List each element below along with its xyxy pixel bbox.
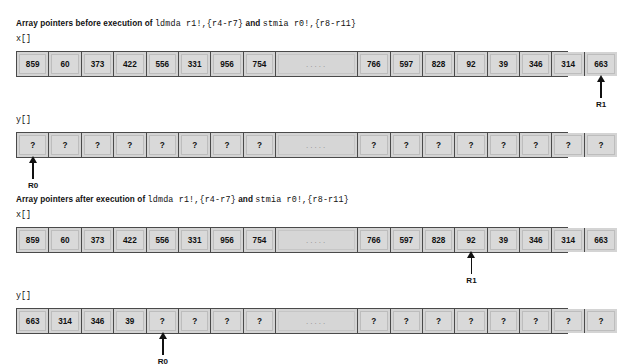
- caption-before-and: and: [243, 19, 263, 28]
- array-x-before-cell-value-15: 314: [561, 60, 575, 69]
- arrow-shaft-icon: [32, 162, 34, 179]
- array-x-after-cell-value-3: 422: [123, 236, 137, 245]
- array-y-before-cell-value-3: ?: [127, 141, 132, 150]
- array-x-before-cell-2: 373: [82, 52, 114, 76]
- array-y-after-cell-value-1: 314: [58, 317, 72, 326]
- array-y-after-cell-value-12: ?: [468, 317, 473, 326]
- array-y-after-cell-7: ?: [244, 309, 276, 333]
- arrow-shaft-icon: [471, 257, 473, 274]
- array-y-before-cell-7: ?: [244, 133, 276, 157]
- array-x-after-cell-8: .....: [276, 228, 358, 252]
- array-y-before-cell-14: ?: [520, 133, 552, 157]
- array-x-before-cell-value-13: 39: [499, 60, 508, 69]
- array-y-after-cell-value-5: ?: [192, 317, 197, 326]
- caption-before-instr2: stmia r0!,{r8-r11}: [263, 19, 357, 29]
- array-x-before-cell-1: 60: [49, 52, 81, 76]
- array-y-after: 66331434639????.....????????: [16, 308, 568, 334]
- array-x-before-cell-14: 346: [520, 52, 552, 76]
- array-x-after-cell-value-2: 373: [91, 236, 105, 245]
- array-x-before-cell-value-1: 60: [61, 60, 70, 69]
- array-x-after-cell-value-7: 754: [253, 236, 267, 245]
- array-y-before-cell-value-7: ?: [257, 141, 262, 150]
- array-y-after-cell-2: 346: [82, 309, 114, 333]
- array-x-after-cell-2: 373: [82, 228, 114, 252]
- array-y-before-cell-value-4: ?: [160, 141, 165, 150]
- array-x-before-cell-15: 314: [552, 52, 584, 76]
- array-y-after-cell-14: ?: [520, 309, 552, 333]
- array-x-before-cell-6: 956: [211, 52, 243, 76]
- array-label-x-before: x[]: [16, 34, 568, 45]
- array-x-after-cell-value-12: 92: [466, 236, 475, 245]
- array-y-after-cell-value-13: ?: [501, 317, 506, 326]
- array-y-before-cell-6: ?: [211, 133, 243, 157]
- array-y-before-cell-value-14: ?: [533, 141, 538, 150]
- array-x-after-cell-3: 422: [114, 228, 146, 252]
- array-y-before-cell-value-16: ?: [599, 141, 604, 150]
- array-x-after-cell-value-11: 828: [432, 236, 446, 245]
- array-y-before-cell-value-12: ?: [468, 141, 473, 150]
- array-y-after-cell-12: ?: [455, 309, 487, 333]
- array-y-after-cell-value-15: ?: [566, 317, 571, 326]
- array-y-after-cell-value-2: 346: [91, 317, 105, 326]
- array-y-after-cell-10: ?: [391, 309, 423, 333]
- array-x-after-cell-16: 663: [585, 228, 617, 252]
- section-after: Array pointers after execution of ldmda …: [16, 194, 568, 334]
- array-y-before-cell-15: ?: [552, 133, 584, 157]
- array-x-after-cell-7: 754: [244, 228, 276, 252]
- array-x-after-cell-6: 956: [211, 228, 243, 252]
- pointer-r1-before: R1: [588, 81, 614, 110]
- array-x-before-cell-value-7: 754: [253, 60, 267, 69]
- array-y-after-cell-value-4: ?: [160, 317, 165, 326]
- array-y-after-cell-1: 314: [49, 309, 81, 333]
- array-y-before-cell-10: ?: [391, 133, 423, 157]
- array-x-after-cell-value-6: 956: [220, 236, 234, 245]
- array-x-before-cell-11: 828: [423, 52, 455, 76]
- array-label-y-after: y[]: [16, 291, 568, 302]
- array-y-before-cell-13: ?: [488, 133, 520, 157]
- array-x-before-cell-value-6: 956: [220, 60, 234, 69]
- array-x-before-cell-4: 556: [147, 52, 179, 76]
- array-x-before-cell-value-10: 597: [399, 60, 413, 69]
- array-y-before-cell-value-8: .....: [306, 141, 327, 150]
- array-x-before-cell-5: 331: [179, 52, 211, 76]
- array-x-before-cell-value-8: .....: [306, 60, 327, 69]
- array-y-before-cell-value-2: ?: [95, 141, 100, 150]
- pointer-label-r0-before: R0: [20, 181, 46, 191]
- array-x-before-cell-16: 663: [585, 52, 617, 76]
- array-x-before-cell-value-9: 766: [367, 60, 381, 69]
- array-y-before-cell-value-11: ?: [436, 141, 441, 150]
- array-x-after-cell-value-13: 39: [499, 236, 508, 245]
- array-x-before-cell-0: 859: [17, 52, 49, 76]
- array-y-after-cell-value-11: ?: [436, 317, 441, 326]
- array-x-after-cell-0: 859: [17, 228, 49, 252]
- array-x-before-cell-value-3: 422: [123, 60, 137, 69]
- section-before: Array pointers before execution of ldmda…: [16, 18, 568, 158]
- array-x-after-cell-9: 766: [358, 228, 390, 252]
- array-x-before-cell-value-11: 828: [432, 60, 446, 69]
- caption-before: Array pointers before execution of ldmda…: [16, 18, 568, 30]
- array-x-after-cell-5: 331: [179, 228, 211, 252]
- caption-after-instr2: stmia r0!,{r8-r11}: [255, 195, 349, 205]
- caption-after: Array pointers after execution of ldmda …: [16, 194, 568, 206]
- array-x-after-cell-10: 597: [391, 228, 423, 252]
- array-x-before-cell-value-16: 663: [594, 60, 608, 69]
- caption-before-text: Array pointers before execution of: [16, 19, 155, 28]
- pointer-label-r0-after: R0: [150, 357, 176, 364]
- array-y-before-cell-value-1: ?: [63, 141, 68, 150]
- array-x-after-cell-12: 92: [455, 228, 487, 252]
- array-x-after-cell-value-0: 859: [26, 236, 40, 245]
- array-y-before-cell-value-6: ?: [225, 141, 230, 150]
- array-y-after-cell-value-16: ?: [599, 317, 604, 326]
- caption-after-and: and: [236, 195, 256, 204]
- array-y-before-cell-value-0: ?: [30, 141, 35, 150]
- array-y-before-cell-16: ?: [585, 133, 617, 157]
- array-x-before-cell-10: 597: [391, 52, 423, 76]
- array-y-before-cell-1: ?: [49, 133, 81, 157]
- array-x-before-cell-value-2: 373: [91, 60, 105, 69]
- array-x-before-cell-value-12: 92: [466, 60, 475, 69]
- array-y-before-cell-value-9: ?: [371, 141, 376, 150]
- array-x-after: 85960373422556331956754.....766597828923…: [16, 227, 568, 253]
- array-label-x-after: x[]: [16, 210, 568, 221]
- array-x-after-cell-value-5: 331: [188, 236, 202, 245]
